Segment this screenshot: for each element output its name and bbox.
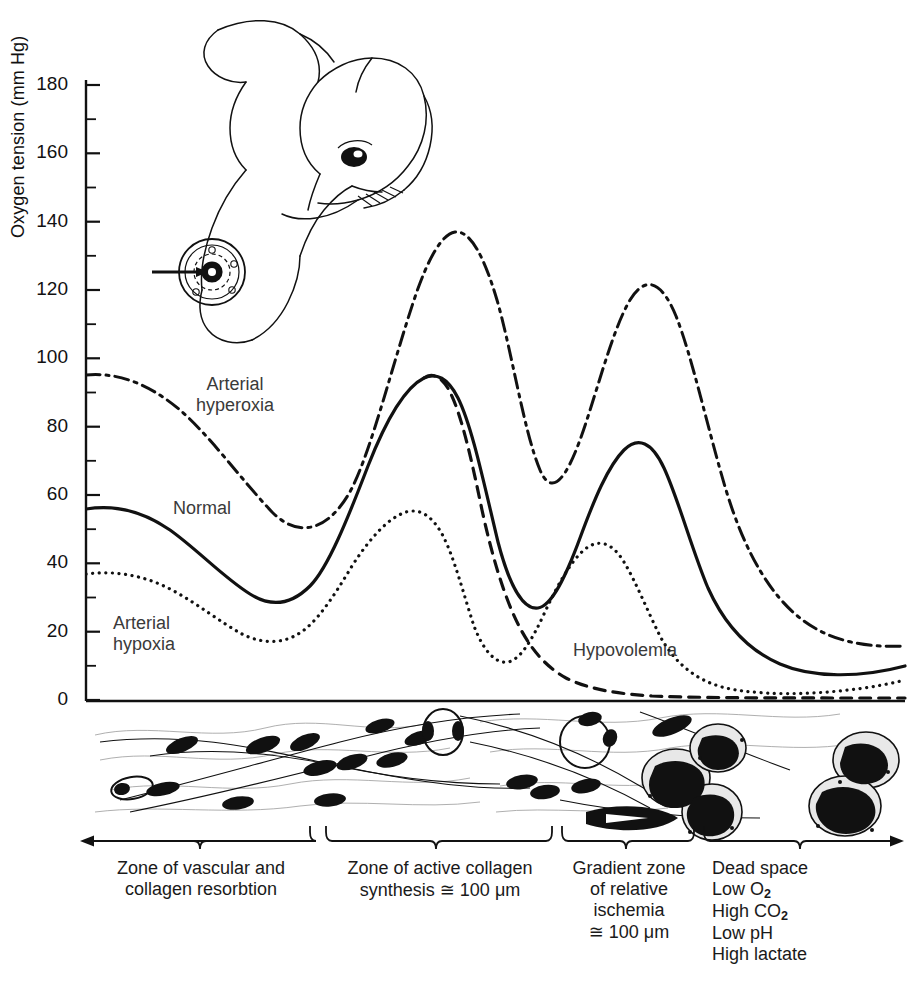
curve-label-hyperoxia-line1: Arterial xyxy=(160,374,310,395)
y-tick-0: 0 xyxy=(22,688,68,710)
zone-gradient-line1: Gradient zone xyxy=(558,858,700,879)
zone-resorption-line2: collagen resorbtion xyxy=(86,879,316,900)
y-axis-label: Oxygen tension (mm Hg) xyxy=(8,0,29,238)
y-tick-160: 160 xyxy=(22,141,68,163)
curve-arterial-hyperoxia xyxy=(86,232,905,646)
curve-label-hypovolemia: Hypovolemia xyxy=(540,640,710,661)
curve-label-hyperoxia-line2: hyperoxia xyxy=(160,395,310,416)
y-tick-120: 120 xyxy=(22,278,68,300)
zone-label-dead-space: Dead space Low O2 High CO2 Low pH High l… xyxy=(712,858,912,965)
zone-gradient-line2: of relative ischemia xyxy=(558,879,700,921)
zone-dead-space-line4: Low pH xyxy=(712,923,912,944)
curve-label-hypoxia-line2: hypoxia xyxy=(113,634,253,655)
zone-dead-space-line5: High lactate xyxy=(712,944,912,965)
zone-synthesis-line1: Zone of active collagen xyxy=(322,858,558,879)
zone-dead-space-line2: Low O2 xyxy=(712,879,912,901)
zone-label-synthesis: Zone of active collagen synthesis ≅ 100 … xyxy=(322,858,558,901)
y-tick-100: 100 xyxy=(22,346,68,368)
zone-label-resorption: Zone of vascular and collagen resorbtion xyxy=(86,858,316,900)
curve-label-hypoxia-line1: Arterial xyxy=(113,613,253,634)
zone-gradient-line3: ≅ 100 μm xyxy=(558,921,700,943)
oxygen-tension-wound-figure: Oxygen tension (mm Hg) 180 160 140 120 1… xyxy=(0,0,918,986)
zone-dead-space-line1: Dead space xyxy=(712,858,912,879)
zone-resorption-line1: Zone of vascular and xyxy=(86,858,316,879)
zone-label-gradient: Gradient zone of relative ischemia ≅ 100… xyxy=(558,858,700,943)
y-axis-minor-ticks xyxy=(86,119,96,666)
rabbit-head-illustration xyxy=(200,21,432,343)
rabbit-eye xyxy=(338,141,372,167)
y-tick-60: 60 xyxy=(22,483,68,505)
zone-brace-axis xyxy=(80,826,904,849)
curve-label-arterial-hypoxia: Arterial hypoxia xyxy=(113,613,253,655)
y-tick-180: 180 xyxy=(22,73,68,95)
y-tick-20: 20 xyxy=(22,620,68,642)
y-tick-80: 80 xyxy=(22,415,68,437)
curve-label-normal: Normal xyxy=(147,498,257,519)
zone-synthesis-line2: synthesis ≅ 100 μm xyxy=(322,879,558,901)
y-tick-140: 140 xyxy=(22,210,68,232)
y-tick-40: 40 xyxy=(22,551,68,573)
zone-dead-space-line3: High CO2 xyxy=(712,901,912,923)
histology-illustration xyxy=(88,703,903,840)
figure-canvas xyxy=(0,0,918,986)
curve-label-arterial-hyperoxia: Arterial hyperoxia xyxy=(160,374,310,416)
